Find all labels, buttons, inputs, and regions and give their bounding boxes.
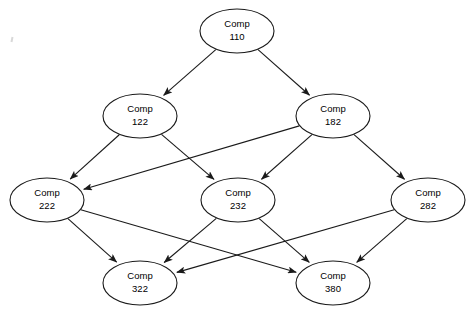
edge-232-to-322 <box>164 218 216 262</box>
node-label-prefix-110: Comp <box>224 18 249 29</box>
node-label-number-322: 322 <box>132 283 148 294</box>
edge-182-to-232 <box>261 135 311 180</box>
node-comp-282[interactable]: Comp282 <box>391 178 465 222</box>
node-comp-380[interactable]: Comp380 <box>296 261 370 305</box>
edge-122-to-232 <box>162 134 215 179</box>
node-label-prefix-222: Comp <box>34 187 59 198</box>
edge-222-to-380 <box>81 210 296 273</box>
diagram-canvas: Comp110Comp122Comp182Comp222Comp232Comp2… <box>0 0 472 319</box>
component-dependency-graph: Comp110Comp122Comp182Comp222Comp232Comp2… <box>0 0 472 319</box>
node-layer: Comp110Comp122Comp182Comp222Comp232Comp2… <box>10 9 465 305</box>
node-label-prefix-322: Comp <box>127 270 152 281</box>
edge-110-to-182 <box>258 50 309 96</box>
edge-layer <box>68 50 407 273</box>
node-comp-222[interactable]: Comp222 <box>10 178 84 222</box>
node-label-prefix-380: Comp <box>320 270 345 281</box>
node-label-number-182: 182 <box>325 116 341 127</box>
node-comp-182[interactable]: Comp182 <box>296 94 370 138</box>
node-comp-232[interactable]: Comp232 <box>201 178 275 222</box>
node-comp-122[interactable]: Comp122 <box>103 94 177 138</box>
node-label-number-222: 222 <box>39 200 55 211</box>
node-label-prefix-282: Comp <box>415 187 440 198</box>
edge-222-to-322 <box>68 219 117 262</box>
edge-282-to-380 <box>357 219 407 263</box>
node-label-prefix-182: Comp <box>320 103 345 114</box>
edge-182-to-282 <box>354 135 404 180</box>
node-label-number-110: 110 <box>229 31 244 42</box>
edge-232-to-380 <box>259 219 309 263</box>
edge-110-to-122 <box>164 50 216 96</box>
node-label-number-380: 380 <box>325 283 341 294</box>
node-label-prefix-122: Comp <box>127 103 152 114</box>
node-label-number-122: 122 <box>132 116 148 127</box>
edge-182-to-222 <box>84 126 300 189</box>
node-label-number-232: 232 <box>230 200 246 211</box>
node-label-number-282: 282 <box>420 200 436 211</box>
node-label-prefix-232: Comp <box>225 187 250 198</box>
node-comp-322[interactable]: Comp322 <box>103 261 177 305</box>
node-comp-110[interactable]: Comp110 <box>200 9 274 53</box>
edge-282-to-322 <box>177 210 394 273</box>
edge-122-to-222 <box>70 135 119 179</box>
